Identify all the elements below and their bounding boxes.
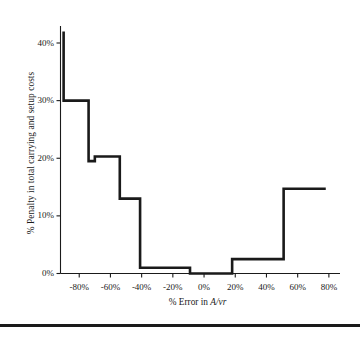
y-tick-marks [57, 43, 61, 274]
x-axis-title: % Error in A/vr [60, 297, 335, 307]
x-tick-label: 80% [309, 283, 349, 292]
y-tick-label-text: 30% [18, 96, 54, 105]
y-tick-label: 40% [18, 39, 54, 48]
x-axis-title-variable: A/vr [210, 297, 226, 307]
y-tick-label: 10% [18, 211, 54, 220]
y-tick-label: 0% [18, 269, 54, 278]
footer-rule [0, 324, 360, 327]
y-tick-label-text: 20% [18, 154, 54, 163]
y-tick-label-text: 40% [18, 39, 54, 48]
chart-plot-area: 0%10%20%30%40% -80%-60%-40%-20%0%20%40%6… [0, 0, 360, 310]
y-tick-label: 20% [18, 154, 54, 163]
y-tick-label-text: 0% [18, 269, 54, 278]
y-tick-label: 30% [18, 96, 54, 105]
step-chart-svg [0, 0, 360, 310]
x-axis-title-prefix: % Error in [169, 297, 211, 307]
y-axis-title: % Penalty in total carrying and setup co… [26, 28, 36, 278]
y-tick-label-text: 10% [18, 211, 54, 220]
axes-group [61, 26, 341, 274]
figure: 0%10%20%30%40% -80%-60%-40%-20%0%20%40%6… [0, 0, 360, 338]
step-series-path [64, 31, 326, 273]
